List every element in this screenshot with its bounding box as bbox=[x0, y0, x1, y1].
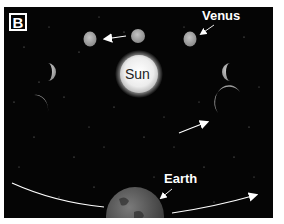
venus-phases-diagram bbox=[4, 7, 273, 218]
sun-label: Sun bbox=[125, 67, 150, 81]
starfield bbox=[13, 17, 259, 203]
venus-label-pointer bbox=[201, 25, 214, 34]
venus-phase-crescent-right bbox=[214, 85, 240, 113]
venus-label: Venus bbox=[202, 9, 240, 22]
earth-label-pointer bbox=[161, 189, 172, 198]
earth bbox=[106, 187, 164, 218]
venus-phase-full bbox=[131, 29, 145, 43]
venus-phase-half-right bbox=[222, 63, 230, 81]
venus-phase-gibbous-right bbox=[184, 32, 197, 47]
arrow-venus-top bbox=[105, 36, 126, 39]
venus-phase-crescent-left bbox=[34, 95, 48, 112]
arrow-earth-left bbox=[12, 183, 104, 207]
arrow-earth-right bbox=[172, 195, 256, 213]
venus-phase-gibbous-left bbox=[84, 32, 97, 47]
panel-badge: B bbox=[9, 13, 27, 31]
venus-phase-half-left bbox=[48, 63, 56, 81]
earth-label: Earth bbox=[164, 172, 197, 185]
diagram-frame: B Venus Sun Earth bbox=[4, 7, 273, 218]
arrow-venus-right bbox=[179, 122, 207, 133]
